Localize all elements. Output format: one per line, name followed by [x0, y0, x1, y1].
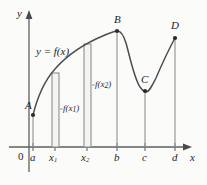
x-tick-x2-subscript: 2	[86, 156, 89, 163]
bar-f-x2	[84, 44, 91, 147]
x-axis-label: x	[190, 152, 195, 163]
bar-f-x1	[52, 73, 59, 147]
x-tick-label-c: c	[142, 152, 147, 163]
x-tick-label-a: a	[30, 152, 36, 163]
function-label: y = f(x)	[36, 46, 69, 57]
x-tick-x1-subscript: 1	[54, 156, 57, 163]
point-label-D: D	[171, 20, 179, 31]
figure-extreme-value-theorem: y x 0 y = f(x) A B C D a x1 x2 b c d f(x…	[0, 0, 207, 185]
x-tick-label-x2: x2	[81, 152, 89, 164]
point-marker-d	[173, 36, 177, 40]
point-marker-a	[31, 113, 35, 117]
point-marker-c	[143, 89, 147, 93]
value-label-f-x2: f(x2)	[95, 80, 111, 90]
y-axis-label: y	[17, 8, 22, 19]
f-x1-tail: )	[76, 103, 79, 113]
x-tick-label-d: d	[172, 152, 178, 163]
point-label-A: A	[25, 100, 32, 111]
origin-label: 0	[18, 151, 24, 162]
point-label-C: C	[141, 74, 148, 85]
value-bars	[52, 44, 91, 147]
point-marker-b	[115, 29, 119, 33]
value-label-f-x1: f(x1)	[63, 104, 79, 114]
x-axis	[9, 144, 192, 151]
x-tick-label-b: b	[114, 152, 120, 163]
f-x2-tail: )	[108, 79, 111, 89]
point-label-B: B	[114, 14, 121, 25]
x-tick-label-x1: x1	[49, 152, 57, 164]
y-axis	[26, 10, 33, 172]
